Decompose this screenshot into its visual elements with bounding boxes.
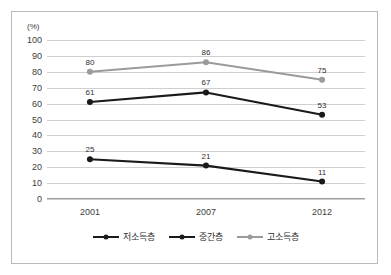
legend-marker-icon	[169, 232, 195, 241]
y-axis-tick-label: 50	[32, 115, 42, 125]
x-axis-tick-label: 2012	[312, 207, 332, 217]
data-point-label: 11	[318, 168, 326, 177]
data-point-label: 86	[202, 48, 211, 57]
legend-item[interactable]: 저소득층	[93, 230, 155, 243]
data-point-marker	[87, 69, 93, 75]
data-point-label: 75	[318, 66, 327, 75]
chart-figure: (%) 0102030405060708090100 2521116167538…	[0, 0, 391, 275]
data-point-marker	[203, 59, 209, 65]
data-point-label: 53	[318, 101, 327, 110]
plot-area: 0102030405060708090100 25211161675380867…	[47, 40, 365, 199]
y-axis-tick-label: 30	[32, 146, 42, 156]
data-point-marker	[203, 163, 209, 169]
legend-item[interactable]: 중간층	[169, 230, 223, 243]
y-axis-tick-label: 100	[27, 35, 42, 45]
data-point-marker	[87, 99, 93, 105]
y-axis-tick-label: 60	[32, 99, 42, 109]
x-axis-tick-label: 2007	[196, 207, 216, 217]
gridline	[47, 199, 365, 200]
data-point-label: 25	[85, 145, 94, 154]
data-point-label: 61	[85, 88, 94, 97]
legend-item[interactable]: 고소득층	[237, 230, 299, 243]
legend-label: 고소득층	[267, 230, 299, 243]
chart-legend: 저소득층중간층고소득층	[0, 230, 391, 243]
legend-marker-icon	[237, 232, 263, 241]
data-point-label: 67	[202, 78, 211, 87]
y-axis-unit-label: (%)	[27, 22, 39, 31]
y-axis-tick-label: 70	[32, 83, 42, 93]
y-axis-tick-label: 20	[32, 162, 42, 172]
legend-label: 저소득층	[123, 230, 155, 243]
series-line	[90, 159, 322, 181]
y-axis-tick-label: 40	[32, 130, 42, 140]
legend-marker-icon	[93, 232, 119, 241]
data-point-marker	[87, 156, 93, 162]
series-line	[90, 92, 322, 114]
y-axis-tick-label: 0	[37, 194, 42, 204]
data-point-marker	[203, 89, 209, 95]
data-point-marker	[319, 112, 325, 118]
y-axis-tick-label: 90	[32, 51, 42, 61]
y-axis-tick-label: 80	[32, 67, 42, 77]
data-point-label: 80	[85, 58, 94, 67]
data-point-marker	[319, 77, 325, 83]
x-axis-tick-label: 2001	[80, 207, 100, 217]
y-axis-tick-label: 10	[32, 178, 42, 188]
data-point-label: 21	[202, 152, 211, 161]
data-point-marker	[319, 179, 325, 185]
legend-label: 중간층	[199, 230, 223, 243]
